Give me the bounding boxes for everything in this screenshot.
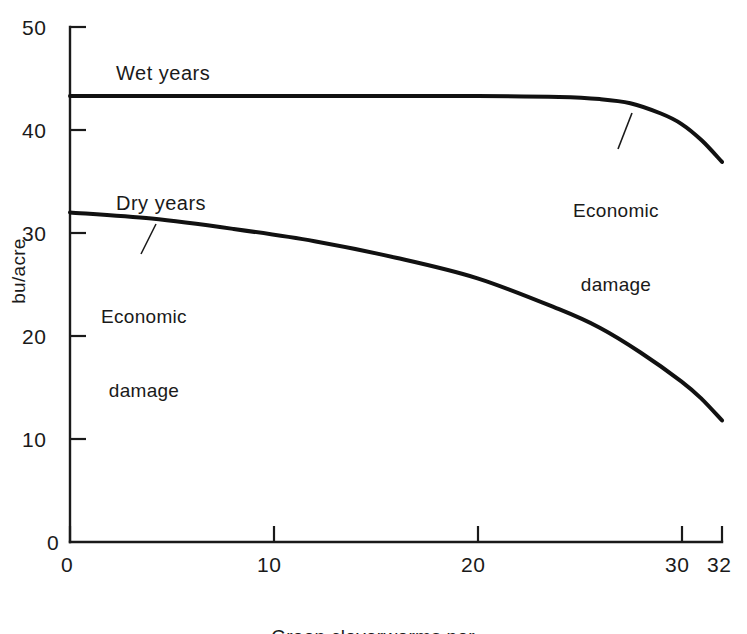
x-axis-title-line1: Green cloverworms per [223,625,523,634]
x-tick-label-10: 10 [257,551,281,578]
x-axis-title: Green cloverworms per 30 cm of row [223,576,523,634]
x-tick-label-20: 20 [461,551,485,578]
x-tick-label-0: 0 [61,551,73,578]
y-axis-title: bu/acre [8,238,30,303]
wet-years-series-label: Wet years [116,60,210,86]
dry-annotation-leader-line [141,224,156,254]
dry-economic-damage-annotation: Economic damage [88,256,200,454]
dry-economic-damage-line2: damage [88,379,200,404]
x-tick-label-32: 32 [707,551,731,578]
dry-economic-damage-line1: Economic [88,305,200,330]
chart-figure: 50 40 30 20 10 0 0 10 20 30 32 Wet years… [0,0,747,634]
wet-annotation-leader-line [618,113,632,149]
wet-economic-damage-line2: damage [560,273,672,298]
y-tick-label-0: 0 [47,529,59,556]
y-tick-label-20: 20 [22,323,46,350]
y-tick-label-50: 50 [22,14,46,41]
dry-years-series-label: Dry years [116,190,206,216]
y-tick-label-10: 10 [22,426,46,453]
wet-economic-damage-annotation: Economic damage [560,150,672,348]
x-tick-label-30: 30 [665,551,689,578]
y-tick-label-40: 40 [22,117,46,144]
wet-economic-damage-line1: Economic [560,199,672,224]
y-axis-title-wrapper: bu/acre [0,258,74,284]
